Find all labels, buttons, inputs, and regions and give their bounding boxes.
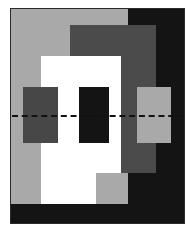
dashed-center-axis bbox=[12, 115, 184, 117]
figure-frame bbox=[10, 8, 185, 224]
figure-root bbox=[0, 0, 192, 234]
